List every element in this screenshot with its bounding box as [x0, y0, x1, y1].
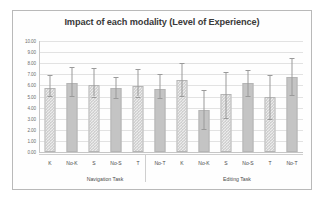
bar-slot [105, 41, 127, 152]
chart-frame: Impact of each modality (Level of Experi… [12, 10, 312, 190]
error-bar [50, 75, 51, 96]
error-bar-cap-upper [70, 67, 75, 68]
bar-slot [237, 41, 259, 152]
bar-slot [149, 41, 171, 152]
group-label: Navigation Task [87, 176, 124, 182]
error-bar [226, 72, 227, 118]
error-bar-cap-lower [70, 96, 75, 97]
category-label: No-T [154, 160, 165, 166]
bar-slot [215, 41, 237, 152]
y-axis-tick-label: 8.00 [27, 61, 36, 66]
error-bar-cap-lower [290, 95, 295, 96]
error-bar-cap-lower [136, 97, 141, 98]
error-bar-cap-lower [246, 96, 251, 97]
bar-slot [61, 41, 83, 152]
y-axis-tick-label: 6.00 [27, 83, 36, 88]
error-bar [116, 77, 117, 99]
group-label: Editing Task [223, 176, 251, 182]
bar-slot [171, 41, 193, 152]
bar-slot [259, 41, 281, 152]
bar-slot [39, 41, 61, 152]
error-bar-cap-lower [202, 129, 207, 130]
error-bar-cap-upper [48, 75, 53, 76]
error-bar [94, 68, 95, 96]
y-axis-tick-label: 4.00 [27, 105, 36, 110]
gridline [39, 152, 303, 153]
error-bar-cap-lower [268, 119, 273, 120]
error-bar [248, 70, 249, 96]
y-axis-tick-label: 10.00 [25, 39, 36, 44]
y-axis-tick-label: 3.00 [27, 116, 36, 121]
error-bar-cap-lower [114, 98, 119, 99]
error-bar-cap-upper [180, 63, 185, 64]
error-bar-cap-upper [136, 69, 141, 70]
error-bar-cap-lower [158, 98, 163, 99]
error-bar-cap-upper [290, 58, 295, 59]
error-bar-cap-upper [114, 77, 119, 78]
error-bar [138, 69, 139, 96]
error-bar-cap-upper [268, 75, 273, 76]
category-label: No-S [110, 160, 121, 166]
category-label: No-T [286, 160, 297, 166]
category-label: No-K [198, 160, 209, 166]
chart-title: Impact of each modality (Level of Experi… [13, 17, 311, 27]
error-bar-cap-lower [224, 118, 229, 119]
group-separator [145, 155, 146, 182]
error-bar [292, 58, 293, 95]
category-label: T [136, 160, 139, 166]
group-axis-labels: Navigation TaskEditing Task [39, 170, 303, 182]
error-bar [182, 63, 183, 96]
error-bar-cap-upper [224, 72, 229, 73]
y-axis-tick-label: 1.00 [27, 138, 36, 143]
y-axis-tick-label: 5.00 [27, 94, 36, 99]
y-axis-tick-labels: 10.009.008.007.006.005.004.003.002.001.0… [13, 41, 39, 152]
bar-series [39, 41, 303, 152]
error-bar-cap-lower [180, 96, 185, 97]
error-bar-cap-lower [48, 96, 53, 97]
category-label: S [224, 160, 227, 166]
error-bar [72, 67, 73, 96]
category-axis-labels: KNo-KSNo-STNo-TKNo-KSNo-STNo-T [39, 155, 303, 166]
y-axis-tick-label: 2.00 [27, 127, 36, 132]
category-label: K [180, 160, 183, 166]
bar-slot [193, 41, 215, 152]
bar-slot [127, 41, 149, 152]
error-bar-cap-upper [92, 68, 97, 69]
bar-slot [281, 41, 303, 152]
error-bar-cap-upper [158, 74, 163, 75]
y-axis-tick-label: 9.00 [27, 50, 36, 55]
y-axis-tick-label: 7.00 [27, 72, 36, 77]
bar-slot [83, 41, 105, 152]
category-label: S [92, 160, 95, 166]
plot-area [39, 41, 303, 152]
category-label: K [48, 160, 51, 166]
category-label: No-K [66, 160, 77, 166]
bar [45, 88, 56, 152]
error-bar [160, 74, 161, 98]
error-bar [204, 90, 205, 129]
error-bar-cap-lower [92, 97, 97, 98]
y-axis-tick-label: 0.00 [27, 150, 36, 155]
error-bar [270, 75, 271, 118]
category-label: T [268, 160, 271, 166]
category-label: No-S [242, 160, 253, 166]
error-bar-cap-upper [202, 90, 207, 91]
error-bar-cap-upper [246, 70, 251, 71]
